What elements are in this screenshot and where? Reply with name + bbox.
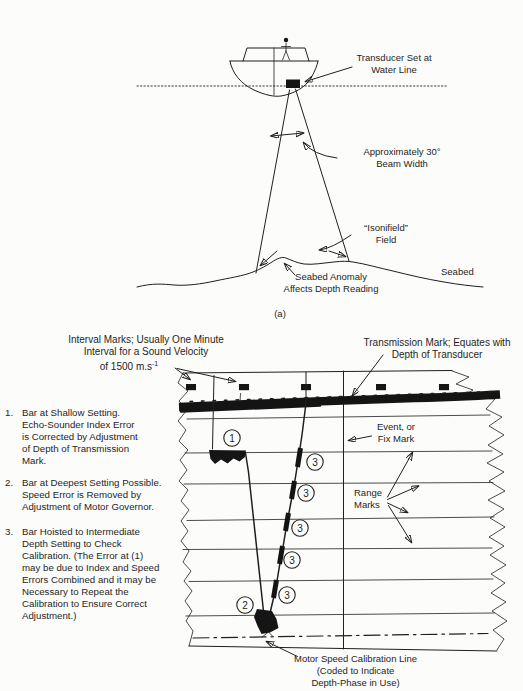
event-leader-arrow bbox=[349, 436, 372, 441]
range-marks-arrow-3 bbox=[388, 503, 408, 513]
figure-page: 1 2 3 3 3 3 3 Transducer Set at Water Li… bbox=[0, 0, 523, 691]
beam-label-leader-arrow bbox=[304, 143, 338, 159]
seabed-anomaly-label: Seabed Anomaly Affects Depth Reading bbox=[268, 271, 394, 295]
callout-intermediate: 3 bbox=[298, 485, 314, 501]
bar-echo-deep-blob bbox=[254, 609, 279, 634]
interval-marks-label: Interval Marks; Usually One Minute Inter… bbox=[40, 334, 252, 373]
bar-wire-shallow bbox=[213, 376, 215, 450]
range-mark-line bbox=[184, 483, 493, 485]
band-spike bbox=[240, 394, 241, 403]
note-3: 3. Bar Hoisted to Intermediate Depth Set… bbox=[5, 526, 159, 622]
note-2: 2. Bar at Deepest Setting Possible. Spee… bbox=[5, 477, 161, 513]
callout-deep: 2 bbox=[237, 597, 253, 613]
transducer-rect bbox=[286, 80, 300, 89]
transducer-label: Transducer Set at Water Line bbox=[336, 52, 452, 76]
beam-width-arrow bbox=[271, 133, 304, 136]
field-arrow-right bbox=[329, 251, 346, 257]
beam-left-line bbox=[256, 90, 290, 273]
svg-text:3: 3 bbox=[297, 523, 303, 534]
callout-intermediate: 3 bbox=[307, 454, 323, 470]
callout-intermediate: 3 bbox=[292, 520, 308, 536]
svg-text:2: 2 bbox=[242, 600, 248, 611]
bar-echo-shallow-blob bbox=[209, 450, 246, 464]
boat-cabin bbox=[243, 48, 309, 61]
seabed-label: Seabed bbox=[441, 266, 481, 278]
beam-width-label: Approximately 30° Beam Width bbox=[337, 146, 467, 170]
range-mark-line bbox=[186, 613, 494, 616]
range-mark-line bbox=[187, 517, 494, 521]
caption-a: (a) bbox=[269, 308, 291, 320]
svg-text:1: 1 bbox=[229, 433, 235, 444]
velocity-superscript: -1 bbox=[152, 360, 158, 367]
range-marks-label: Range Marks bbox=[354, 487, 390, 511]
interval-mark-squares bbox=[186, 384, 449, 390]
svg-text:3: 3 bbox=[284, 590, 290, 601]
person-figure bbox=[282, 38, 291, 60]
field-arrow-left bbox=[261, 251, 278, 266]
callout-intermediate: 3 bbox=[279, 587, 295, 603]
trace-right-torn-edge bbox=[452, 371, 507, 650]
event-fix-mark-label: Event, or Fix Mark bbox=[372, 421, 420, 445]
svg-text:3: 3 bbox=[303, 488, 309, 499]
svg-text:3: 3 bbox=[312, 457, 318, 468]
callout-intermediate: 3 bbox=[284, 552, 300, 568]
trace-left-torn-edge bbox=[178, 373, 193, 646]
range-mark-line bbox=[189, 579, 493, 582]
callout-shallow: 1 bbox=[224, 430, 240, 446]
bar-lowering-trace bbox=[246, 453, 265, 616]
note-1: 1. Bar at Shallow Setting. Echo-Sounder … bbox=[5, 407, 138, 467]
motor-speed-label: Motor Speed Calibration Line (Coded to I… bbox=[268, 653, 443, 689]
range-mark-line bbox=[187, 415, 490, 419]
range-mark-line bbox=[183, 548, 492, 550]
svg-text:3: 3 bbox=[289, 555, 295, 566]
range-marks-arrow-4 bbox=[389, 506, 412, 543]
diagram-b: 1 2 3 3 3 3 3 bbox=[175, 355, 507, 657]
isonifield-label: “Isonifield” Field bbox=[340, 222, 432, 246]
transmission-mark-label: Transmission Mark; Equates with Depth of… bbox=[353, 337, 521, 361]
motor-speed-calibration-line bbox=[193, 634, 488, 639]
